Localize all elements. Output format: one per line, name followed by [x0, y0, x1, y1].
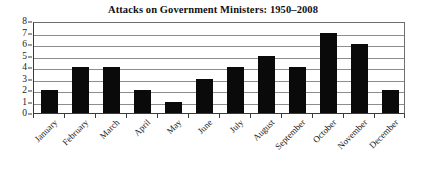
bar [351, 44, 367, 113]
y-tick-label: 1 [22, 98, 27, 108]
bar [382, 90, 398, 113]
bar [289, 67, 305, 113]
y-tick-mark [28, 114, 32, 115]
y-tick-mark [28, 68, 32, 69]
y-tick-mark [28, 79, 32, 80]
y-tick-label: 6 [22, 40, 27, 50]
y-tick-label: 4 [22, 63, 27, 73]
chart-title: Attacks on Government Ministers: 1950–20… [0, 4, 426, 15]
y-tick-label: 0 [22, 109, 27, 119]
x-tick-label: July [228, 118, 245, 135]
bar [258, 56, 274, 114]
x-tick-label: December [367, 118, 400, 151]
x-tick-label: April [132, 118, 152, 138]
y-tick-label: 5 [22, 52, 27, 62]
y-tick-mark [28, 56, 32, 57]
x-tick-label: November [336, 118, 369, 151]
plot-area [33, 22, 405, 114]
bar [41, 90, 57, 113]
x-tick-label: October [311, 118, 338, 145]
bar [227, 67, 243, 113]
y-tick-mark [28, 91, 32, 92]
y-tick-mark [28, 102, 32, 103]
y-axis: 012345678 [0, 22, 31, 114]
x-tick-label: September [273, 118, 307, 152]
bar [196, 79, 212, 114]
bars-layer [34, 23, 404, 113]
y-tick-label: 2 [22, 86, 27, 96]
bar [320, 33, 336, 114]
bar-chart-figure: Attacks on Government Ministers: 1950–20… [0, 0, 426, 169]
y-tick-label: 8 [22, 17, 27, 27]
bar [134, 90, 150, 113]
y-tick-mark [28, 45, 32, 46]
x-tick-label: June [196, 118, 214, 136]
y-tick-mark [28, 22, 32, 23]
x-tick-label: January [33, 118, 59, 144]
x-tick-label: August [251, 118, 276, 143]
y-tick-label: 3 [22, 75, 27, 85]
bar [72, 67, 88, 113]
bar [165, 102, 181, 114]
x-tick-label: March [98, 118, 121, 141]
x-tick-label: May [165, 118, 183, 136]
bar [103, 67, 119, 113]
y-tick-mark [28, 33, 32, 34]
y-tick-label: 7 [22, 29, 27, 39]
x-axis: JanuaryFebruaryMarchAprilMayJuneJulyAugu… [33, 118, 405, 169]
x-tick-label: February [61, 118, 90, 147]
